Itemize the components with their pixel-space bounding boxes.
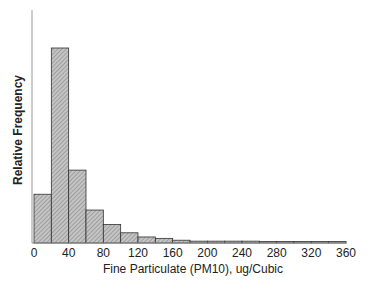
x-tick-label: 80 xyxy=(97,246,111,260)
x-tick-label: 160 xyxy=(163,246,183,260)
x-tick-label: 40 xyxy=(62,246,76,260)
x-tick-label: 120 xyxy=(128,246,148,260)
histogram-bar xyxy=(69,170,86,243)
x-tick-label: 200 xyxy=(197,246,217,260)
histogram-bar xyxy=(34,194,51,243)
x-tick-label: 320 xyxy=(301,246,321,260)
x-tick-label: 360 xyxy=(336,246,356,260)
x-tick-label: 280 xyxy=(267,246,287,260)
y-axis-label: Relative Frequency xyxy=(11,75,25,185)
x-tick-label: 0 xyxy=(31,246,38,260)
x-axis-label: Fine Particulate (PM10), ug/Cubic xyxy=(103,262,283,276)
histogram-bar xyxy=(86,210,103,243)
x-tick-labels: 04080120160200240280320360 xyxy=(31,246,357,260)
x-tick-label: 240 xyxy=(232,246,252,260)
histogram-chart: 04080120160200240280320360 Fine Particul… xyxy=(0,0,371,284)
histogram-bar xyxy=(103,224,120,243)
bars xyxy=(34,48,346,243)
histogram-bar xyxy=(51,48,68,243)
histogram-bar xyxy=(121,233,138,243)
histogram-bar xyxy=(138,237,155,243)
histogram-bar xyxy=(155,238,172,243)
